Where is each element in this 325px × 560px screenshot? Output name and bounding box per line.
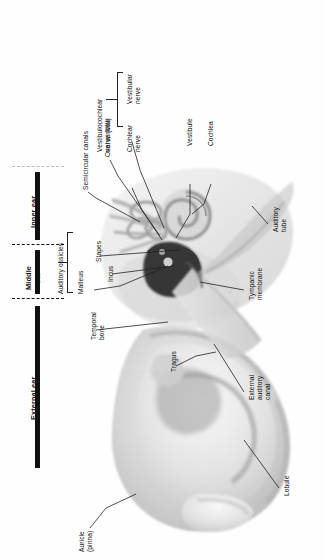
bracket-vestibulocochlear-arm-bottom bbox=[117, 126, 123, 127]
bracket-vestibulocochlear-arm-top bbox=[117, 72, 123, 73]
label-malleus: Malleus bbox=[77, 271, 85, 294]
bracket-ossicles-arm-top bbox=[67, 232, 73, 233]
bracket-ossicles-span bbox=[67, 232, 68, 292]
label-cochlea: Cochlea bbox=[207, 121, 215, 146]
label-vestibular-nerve: Vestibular nerve bbox=[126, 74, 142, 104]
divider-middle-external bbox=[12, 298, 64, 299]
label-auricle-pinna: Auricle (pinna) bbox=[78, 531, 94, 552]
label-lobule: Lobule bbox=[283, 476, 291, 496]
ear-illustration bbox=[0, 0, 325, 560]
label-auditory-ossicles: Auditory ossicles bbox=[57, 243, 65, 294]
label-auditory-tube: Auditory tube bbox=[272, 207, 288, 232]
label-cochlear-nerve: Cochlear nerve bbox=[126, 125, 142, 152]
region-label-middle-ear: Middle ear bbox=[25, 266, 42, 290]
ear-anatomy-figure: Inner ear Middle ear External ear Vestib… bbox=[0, 0, 325, 560]
divider-inner-top bbox=[12, 166, 64, 167]
label-temporal-bone: Temporal bone bbox=[90, 312, 106, 340]
label-vestibule: Vestibule bbox=[186, 118, 194, 146]
label-incus: Incus bbox=[107, 266, 115, 282]
label-stapes: Stapes bbox=[95, 241, 103, 262]
label-semicircular-canals: Semicircular canals bbox=[82, 131, 90, 190]
label-external-auditory-canal: External auditory canal bbox=[248, 375, 271, 400]
region-label-external-ear: External ear bbox=[30, 376, 39, 420]
bracket-vestibulocochlear-span bbox=[117, 72, 118, 126]
bracket-ossicles-arm-bottom bbox=[67, 292, 73, 293]
label-tympanic-membrane: Tympanic membrane bbox=[248, 268, 264, 300]
region-label-inner-ear: Inner ear bbox=[30, 196, 39, 228]
label-tragus: Tragus bbox=[170, 351, 178, 372]
label-oval-window: Oval window bbox=[104, 119, 112, 157]
